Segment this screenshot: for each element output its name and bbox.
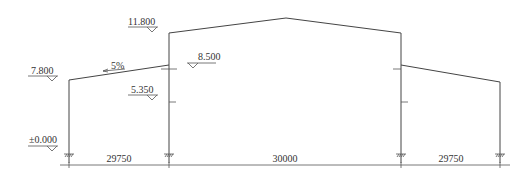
svg-text:7.800: 7.800 (31, 65, 54, 76)
span-label-right: 29750 (439, 153, 464, 164)
elevation-marker-8500: 8.500 (187, 51, 221, 68)
elevation-marker-0000: ±0.000 (28, 134, 58, 151)
svg-text:±0.000: ±0.000 (29, 134, 57, 145)
frame-elevation-diagram: 29750 30000 29750 11.800 8.500 7.800 5.3… (0, 0, 528, 178)
span-label-left: 29750 (107, 153, 132, 164)
elevation-marker-11800: 11.800 (128, 16, 158, 32)
elevation-marker-7800: 7.800 (28, 65, 58, 81)
right-lean-to-roof (401, 65, 500, 82)
slope-annotation: 5% (103, 60, 125, 72)
svg-text:5.350: 5.350 (131, 84, 154, 95)
svg-text:8.500: 8.500 (198, 51, 221, 62)
elevation-marker-5350: 5.350 (128, 84, 158, 100)
main-roof (169, 18, 401, 33)
span-label-center: 30000 (273, 153, 298, 164)
svg-text:11.800: 11.800 (128, 16, 155, 27)
